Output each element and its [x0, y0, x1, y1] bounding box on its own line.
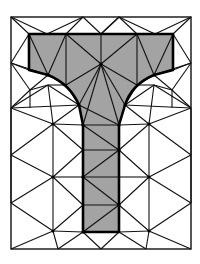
mesh-node — [117, 123, 120, 126]
mesh-node — [147, 175, 150, 178]
mesh-node — [77, 103, 80, 106]
mesh-node — [147, 122, 150, 125]
mesh-node — [123, 103, 126, 106]
t-shape-mesh-figure — [0, 0, 200, 264]
mesh-node — [81, 230, 84, 233]
mesh-node — [117, 203, 120, 206]
mesh-node — [152, 73, 155, 76]
mesh-diagram — [0, 0, 200, 264]
mesh-node — [51, 175, 54, 178]
mesh-node — [147, 229, 150, 232]
mesh-node — [46, 73, 49, 76]
mesh-node — [81, 175, 84, 178]
mesh-node — [81, 123, 84, 126]
mesh-node — [117, 148, 120, 151]
mesh-node — [51, 122, 54, 125]
mesh-node — [99, 62, 102, 65]
mesh-node — [51, 229, 54, 232]
